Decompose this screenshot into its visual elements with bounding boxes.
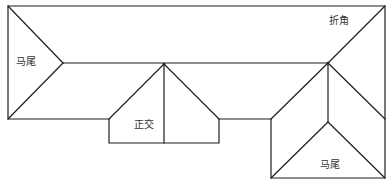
- junction-dot: [163, 63, 166, 66]
- left-hip-lower: [8, 63, 63, 119]
- label-hip-left: 马尾: [16, 56, 36, 67]
- label-hip-bottom-right: 马尾: [320, 159, 340, 170]
- junction-dot: [327, 62, 330, 65]
- label-orthogonal: 正交: [134, 118, 154, 130]
- label-corner: 折角: [329, 14, 349, 26]
- valley-left: [109, 64, 164, 119]
- wing-hip-right: [328, 63, 385, 119]
- wing-valley: [271, 63, 328, 119]
- left-hip-upper: [8, 6, 63, 63]
- valley-right: [164, 64, 219, 119]
- roof-plan-diagram: 马尾 折角 正交 马尾: [0, 0, 391, 184]
